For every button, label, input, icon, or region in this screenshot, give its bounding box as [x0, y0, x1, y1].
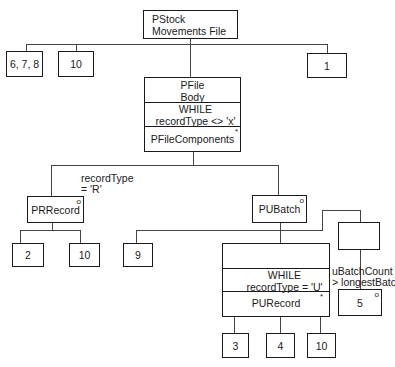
node-1: 1 [307, 53, 347, 78]
root-line1: PStock [152, 13, 185, 25]
node-label: 3 [233, 340, 239, 352]
connector [52, 222, 53, 230]
file-body-title: PFile Body [145, 78, 240, 103]
condition-line1: WHILE [240, 269, 329, 281]
connector [322, 210, 323, 230]
condition-line1: WHILE [151, 103, 240, 115]
connector [280, 316, 281, 333]
optional-empty-box [338, 222, 380, 250]
ubatch-loop-header [223, 244, 329, 269]
node-label: 6, 7, 8 [10, 58, 39, 70]
connector [320, 316, 321, 333]
node-5: 5 o [338, 289, 382, 316]
condition-line2: > longestBatch [332, 277, 395, 288]
connector [51, 165, 279, 166]
node-label: 1 [324, 60, 330, 72]
condition-line2: = 'R' [81, 184, 134, 195]
ubatch-loop-condition: WHILE recordType = 'U' [223, 269, 329, 292]
connector [80, 230, 81, 243]
file-body-box: PFile Body WHILE recordType <> 'x' PFile… [144, 77, 241, 152]
components-label: PFileComponents [151, 133, 234, 145]
connector [193, 151, 194, 165]
connector [322, 210, 361, 211]
condition-line2: recordType <> 'x' [151, 115, 240, 127]
node-10: 10 [69, 243, 100, 267]
node-3: 3 [222, 333, 249, 358]
selection-condition-label: recordType = 'R' [81, 173, 134, 195]
node-label: PUBatch [259, 203, 300, 215]
ubatch-loop-box: WHILE recordType = 'U' PURecord * [222, 243, 330, 317]
root-line2: Movements File [152, 25, 226, 37]
node-9: 9 [123, 243, 153, 267]
file-body-condition: WHILE recordType <> 'x' [145, 103, 240, 127]
selection-mark-icon: o [300, 197, 304, 205]
connector [136, 230, 137, 243]
iteration-mark-icon: * [320, 293, 323, 301]
node-6-7-8: 6, 7, 8 [6, 51, 43, 77]
node-4: 4 [266, 333, 295, 358]
connector [20, 230, 21, 243]
node-label: 10 [70, 58, 82, 70]
ubatch-loop-body: PURecord * [223, 292, 329, 316]
connector [20, 230, 81, 231]
node-2: 2 [12, 243, 44, 267]
title-line1: PFile [145, 79, 240, 91]
selection-mark-icon: o [375, 291, 379, 299]
file-body-components: PFileComponents * [145, 127, 240, 151]
connector [280, 222, 281, 243]
connector [360, 210, 361, 222]
root-box: PStock Movements File [143, 10, 238, 39]
node-label: 10 [79, 249, 91, 261]
node-10: 10 [58, 51, 94, 77]
node-label: 10 [316, 340, 328, 352]
node-label: PRRecord [31, 204, 79, 216]
connector [136, 230, 323, 231]
connector [234, 316, 235, 333]
optional-condition-label: uBatchCount > longestBatch [332, 266, 395, 288]
node-10: 10 [307, 333, 336, 358]
body-label: PURecord [252, 297, 300, 309]
connector [26, 44, 328, 45]
node-label: 2 [25, 249, 31, 261]
title-line2: Body [145, 91, 240, 103]
connector [278, 165, 279, 195]
selection-mark-icon: o [77, 198, 81, 206]
connector [51, 165, 52, 196]
node-label: 4 [278, 340, 284, 352]
pubatch-box: PUBatch o [252, 195, 307, 223]
prrecord-box: PRRecord o [27, 196, 84, 223]
iteration-mark-icon: * [235, 128, 238, 136]
node-label: 9 [135, 249, 141, 261]
node-label: 5 [357, 297, 363, 309]
